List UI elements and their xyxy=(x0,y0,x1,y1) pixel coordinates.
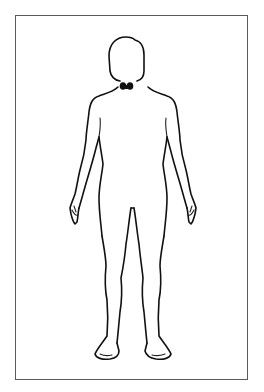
right-armpit-line xyxy=(166,118,167,137)
left-hand-fingers xyxy=(72,206,78,215)
right-leg-outer xyxy=(145,236,171,359)
right-hand-fingers xyxy=(188,206,194,215)
thyroid-icon xyxy=(120,82,134,90)
left-inner-arm xyxy=(79,137,99,208)
right-torso-side xyxy=(163,137,167,236)
left-foot-detail xyxy=(100,354,112,356)
left-leg-inner xyxy=(117,208,131,343)
right-inner-arm xyxy=(167,137,187,208)
body-diagram xyxy=(0,0,264,392)
right-leg-inner xyxy=(134,208,147,343)
head-outline xyxy=(109,37,144,81)
right-foot-detail xyxy=(152,354,165,356)
left-leg-outer xyxy=(95,236,119,359)
left-armpit-line xyxy=(99,118,100,137)
left-torso-side xyxy=(99,137,103,236)
